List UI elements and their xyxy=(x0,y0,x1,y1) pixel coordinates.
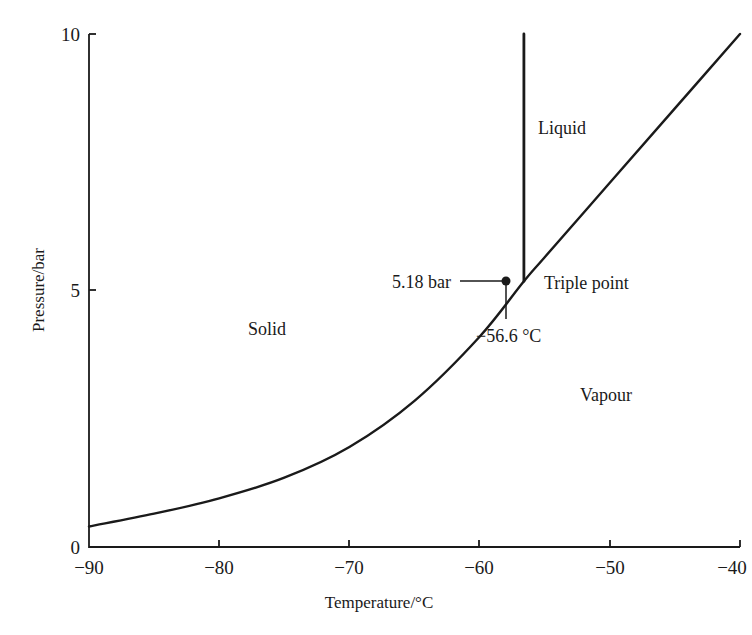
triple-point-label: Triple point xyxy=(544,273,629,293)
x-tick-label: −40 xyxy=(717,557,747,578)
phase-diagram-chart: Phase diagram of carbon dioxide near the… xyxy=(0,0,752,635)
region-label-liquid: Liquid xyxy=(538,118,586,138)
y-tick-label: 0 xyxy=(71,537,81,558)
y-tick-label: 5 xyxy=(71,280,81,301)
pressure-annotation: 5.18 bar xyxy=(392,272,451,292)
triple-point-annotation xyxy=(460,277,511,320)
x-axis-title: Temperature/°C xyxy=(325,593,434,612)
triple-point-marker xyxy=(502,277,511,286)
y-tick-labels: 10 5 0 xyxy=(61,24,80,558)
temperature-annotation: −56.6 °C xyxy=(476,326,541,346)
y-axis-title: Pressure/bar xyxy=(29,248,48,332)
x-tick-label: −90 xyxy=(74,557,104,578)
region-label-vapour: Vapour xyxy=(580,385,632,405)
y-tick-label: 10 xyxy=(61,24,80,45)
x-tick-labels: −90 −80 −70 −60 −50 −40 xyxy=(74,557,747,578)
region-label-solid: Solid xyxy=(248,319,286,339)
x-tick-label: −50 xyxy=(595,557,625,578)
x-tick-label: −60 xyxy=(464,557,494,578)
x-tick-label: −80 xyxy=(204,557,234,578)
x-tick-label: −70 xyxy=(334,557,364,578)
